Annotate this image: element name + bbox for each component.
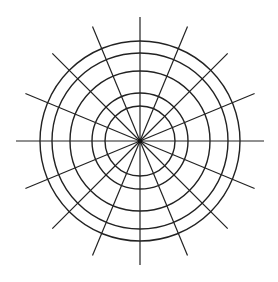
spoke-11 bbox=[52, 141, 140, 229]
polar-grid-diagram bbox=[0, 0, 278, 282]
spoke-3 bbox=[140, 53, 228, 141]
center-point bbox=[138, 139, 143, 144]
spoke-15 bbox=[52, 53, 140, 141]
spoke-7 bbox=[140, 141, 228, 229]
